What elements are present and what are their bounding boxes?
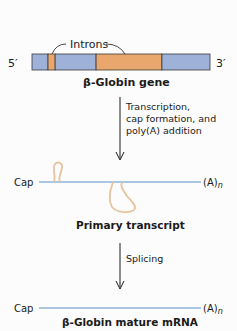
primary-polya-label: (A)n [203,177,223,190]
primary-transcript-section: Cap (A)n Primary transcript [14,163,223,231]
splicing-label: Splicing [126,253,163,264]
intron2-leader-line [106,44,125,54]
intron-2-segment [96,54,162,70]
transcription-label: Transcription, cap formation, and poly(A… [125,101,219,136]
intron1-loop [54,163,62,182]
primary-transcript-title: Primary transcript [76,219,185,231]
exon-1-segment [32,54,48,70]
intron-1-segment [48,54,55,70]
mature-cap-label: Cap [14,303,33,314]
introns-label: Introns [70,38,109,51]
beta-symbol: β [83,76,91,89]
exon-2-segment [55,54,96,70]
gene-section: 5′ 3′ Introns β-Globin gene [8,38,226,89]
intron2-loop [110,182,135,212]
intron1-leader-line [52,44,66,54]
mature-polya-label: (A)n [203,303,223,316]
gene-bar [32,54,210,70]
splicing-step: Splicing [116,243,163,289]
beta-globin-processing-diagram: 5′ 3′ Introns β-Globin gene Transcriptio… [0,0,237,331]
primary-cap-label: Cap [14,177,33,188]
mature-mrna-section: Cap (A)n β-Globin mature mRNA [14,303,223,328]
mature-mrna-title: β-Globin mature mRNA [62,316,199,328]
three-prime-label: 3′ [216,57,226,70]
diagram-canvas: 5′ 3′ Introns β-Globin gene Transcriptio… [0,0,237,331]
five-prime-label: 5′ [8,57,18,70]
exon-3-segment [162,54,210,70]
gene-title-text: -Globin gene [91,76,170,89]
transcription-step: Transcription, cap formation, and poly(A… [116,97,219,160]
mature-mrna-title-text: -Globin mature mRNA [70,316,199,328]
gene-title: β-Globin gene [83,76,170,89]
